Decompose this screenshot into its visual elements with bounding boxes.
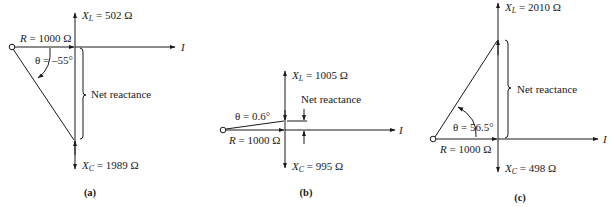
xl-label: XL = 2010 Ω bbox=[504, 1, 561, 15]
current-label: I bbox=[398, 124, 404, 136]
caption-c: (c) bbox=[514, 192, 526, 204]
xc-label: XC = 995 Ω bbox=[291, 160, 343, 174]
r-label: R = 1000 Ω bbox=[19, 32, 71, 44]
theta-label: θ = 0.6° bbox=[235, 110, 270, 122]
r-label: R = 1000 Ω bbox=[228, 134, 280, 146]
xl-label: XL = 1005 Ω bbox=[291, 69, 348, 83]
net-reactance-label: Net reactance bbox=[517, 83, 577, 95]
origin-circle bbox=[220, 127, 226, 133]
origin-circle bbox=[9, 44, 15, 50]
caption-a: (a) bbox=[84, 187, 97, 199]
net-reactance-brace bbox=[505, 40, 511, 138]
phasor-diagram-a: XL = 502 Ω R = 1000 Ω θ = –55° Net react… bbox=[9, 9, 186, 199]
net-reactance-brace bbox=[80, 48, 86, 139]
xc-label: XC = 498 Ω bbox=[504, 162, 556, 176]
net-reactance-label: Net reactance bbox=[91, 88, 151, 100]
origin-circle bbox=[430, 136, 436, 142]
phasor-diagram-c: XL = 2010 Ω Net reactance θ = 56.5° R = … bbox=[430, 1, 608, 204]
current-label: I bbox=[180, 41, 186, 53]
xl-label: XL = 502 Ω bbox=[81, 9, 132, 23]
r-label: R = 1000 Ω bbox=[439, 143, 491, 155]
impedance-phasor bbox=[226, 121, 284, 129]
net-reactance-label: Net reactance bbox=[301, 93, 361, 105]
xc-label: XC = 1989 Ω bbox=[81, 159, 139, 173]
current-label: I bbox=[602, 133, 608, 145]
theta-label: θ = –55° bbox=[35, 54, 73, 66]
theta-label: θ = 56.5° bbox=[453, 121, 494, 133]
caption-b: (b) bbox=[300, 187, 313, 199]
phasor-diagram-b: XL = 1005 Ω Net reactance θ = 0.6° R = 1… bbox=[220, 69, 404, 199]
phasor-diagrams: XL = 502 Ω R = 1000 Ω θ = –55° Net react… bbox=[0, 0, 613, 207]
